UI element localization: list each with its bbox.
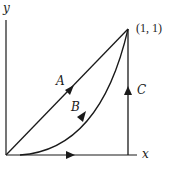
path-b-label: B [71,101,80,113]
path-b [20,29,128,155]
x-axis-label: x [142,148,149,160]
path-c-label: C [137,84,146,96]
endpoint-label: (1, 1) [136,22,162,34]
path-c-horizontal-arrow-icon [66,151,75,159]
path-c-vertical-arrow-icon [124,86,132,95]
y-axis-label: y [3,2,10,14]
path-a-label: A [56,75,65,87]
path-diagram: y x (1, 1) A B C [0,0,169,172]
